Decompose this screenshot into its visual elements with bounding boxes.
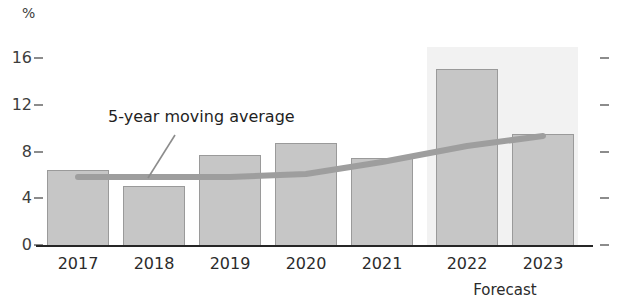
y-tick-mark-12 — [34, 104, 43, 106]
y-tick-mark-right-16 — [600, 57, 609, 59]
annotation-leader-line — [148, 135, 175, 178]
y-tick-mark-16 — [34, 57, 43, 59]
bar-2019 — [199, 155, 261, 246]
y-tick-mark-right-4 — [600, 197, 609, 199]
y-tick-label-0: 0 — [4, 235, 32, 254]
x-tick-label-2019: 2019 — [199, 254, 261, 273]
bar-2022 — [436, 69, 498, 246]
y-axis-unit-label: % — [22, 5, 35, 21]
y-tick-label-16: 16 — [4, 48, 32, 67]
chart-container: % 16 12 8 4 0 5-year moving average 2017… — [0, 0, 619, 307]
y-tick-label-8: 8 — [4, 142, 32, 161]
bar-2023 — [512, 134, 574, 246]
x-tick-label-2020: 2020 — [275, 254, 337, 273]
x-tick-label-2022: 2022 — [436, 254, 498, 273]
y-tick-mark-4 — [34, 197, 43, 199]
bar-2021 — [351, 158, 413, 246]
x-tick-label-2023: 2023 — [512, 254, 574, 273]
moving-average-annotation-label: 5-year moving average — [108, 107, 295, 126]
y-tick-mark-right-0 — [600, 244, 609, 246]
y-tick-label-12: 12 — [4, 95, 32, 114]
x-axis-line — [36, 245, 593, 247]
x-tick-label-2021: 2021 — [351, 254, 413, 273]
forecast-caption: Forecast — [436, 281, 574, 299]
y-tick-mark-right-12 — [600, 104, 609, 106]
x-tick-label-2017: 2017 — [47, 254, 109, 273]
x-tick-label-2018: 2018 — [123, 254, 185, 273]
bar-2017 — [47, 170, 109, 246]
bar-2018 — [123, 186, 185, 246]
y-tick-mark-right-8 — [600, 151, 609, 153]
y-tick-label-4: 4 — [4, 188, 32, 207]
y-tick-mark-8 — [34, 151, 43, 153]
bar-2020 — [275, 143, 337, 246]
